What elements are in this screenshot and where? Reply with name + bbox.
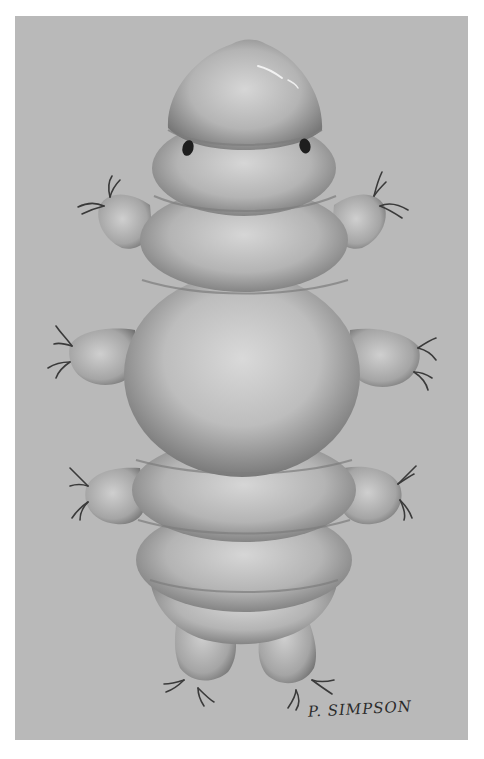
head-segment: [168, 40, 322, 151]
body-segment-3-belly: [124, 273, 360, 477]
leg-mid1-right: [348, 329, 436, 390]
tardigrade-illustration: [0, 0, 484, 759]
tardigrade-body: [124, 40, 360, 645]
